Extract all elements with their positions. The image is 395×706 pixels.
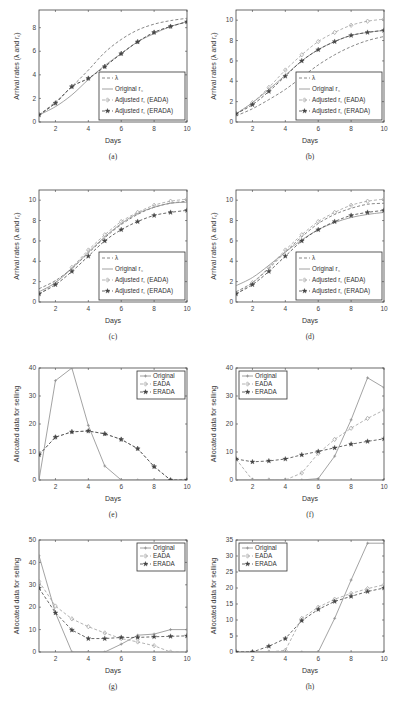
- y-tick-label: 2: [229, 278, 233, 285]
- y-tick-label: 2: [229, 98, 233, 105]
- y-tick-label: 40: [29, 559, 37, 566]
- legend-entry: Original: [255, 544, 277, 552]
- chart-svg: 24681001020304050DaysAllocated data for …: [0, 530, 198, 706]
- x-tick-label: 2: [251, 305, 255, 312]
- subfigure-caption: (a): [109, 152, 118, 161]
- x-tick-label: 10: [183, 125, 191, 132]
- legend-entry: Original r꜀: [312, 85, 340, 93]
- y-tick-label: 10: [29, 626, 37, 633]
- x-tick-label: 4: [284, 655, 288, 662]
- x-axis-label: Days: [105, 495, 121, 503]
- chart-legend: OriginalEADAERADA: [137, 371, 185, 399]
- x-tick-label: 10: [380, 655, 388, 662]
- chart-legend: λOriginal r꜀Adjusted r꜀ (EADA)Adjusted r…: [296, 72, 382, 120]
- chart-panel-a: 24681002468DaysArrival rates (λ and r꜀)(…: [0, 0, 198, 176]
- chart-panel-f: 246810010203040DaysAllocated data for se…: [197, 358, 395, 534]
- x-axis-label: Days: [302, 137, 318, 145]
- x-tick-label: 4: [284, 483, 288, 490]
- y-tick-label: 6: [229, 57, 233, 64]
- x-axis-label: Days: [302, 667, 318, 675]
- legend-entry: EADA: [255, 552, 273, 559]
- x-tick-label: 2: [54, 305, 58, 312]
- legend-entry: Original: [153, 372, 175, 380]
- chart-legend: λOriginal r꜀Adjusted r꜀ (EADA)Adjusted r…: [99, 72, 185, 120]
- legend-entry: Original: [153, 544, 175, 552]
- chart-svg: 2468100246810DaysArrival rates (λ and r꜀…: [197, 180, 395, 356]
- subfigure-caption: (e): [109, 510, 118, 519]
- y-tick-label: 0: [229, 118, 233, 125]
- x-tick-label: 2: [251, 125, 255, 132]
- x-tick-label: 2: [54, 125, 58, 132]
- y-tick-label: 10: [226, 616, 234, 623]
- y-tick-label: 30: [226, 552, 234, 559]
- y-tick-label: 20: [226, 584, 234, 591]
- legend-entry: Adjusted r꜀ (ERADA): [312, 287, 370, 295]
- legend-entry: Adjusted r꜀ (EADA): [312, 96, 365, 104]
- y-axis-label: Allocated data for selling: [210, 558, 218, 634]
- x-tick-label: 2: [54, 483, 58, 490]
- y-tick-label: 4: [32, 71, 36, 78]
- y-tick-label: 0: [32, 118, 36, 125]
- subfigure-caption: (d): [306, 332, 315, 341]
- x-tick-label: 6: [119, 305, 123, 312]
- y-axis-label: Arrival rates (λ and r꜀): [13, 32, 21, 99]
- y-axis-label: Arrival rates (λ and r꜀): [210, 212, 218, 279]
- y-tick-label: 30: [29, 392, 37, 399]
- y-tick-label: 4: [32, 257, 36, 264]
- x-tick-label: 6: [316, 305, 320, 312]
- y-tick-label: 15: [226, 600, 234, 607]
- y-tick-label: 40: [29, 364, 37, 371]
- y-tick-label: 35: [226, 536, 234, 543]
- legend-entry: Original r꜀: [115, 265, 143, 273]
- x-tick-label: 10: [380, 125, 388, 132]
- legend-entry: EADA: [153, 380, 171, 387]
- chart-panel-d: 2468100246810DaysArrival rates (λ and r꜀…: [197, 180, 395, 356]
- y-tick-label: 20: [29, 603, 37, 610]
- legend-entry: Adjusted r꜀ (ERADA): [115, 107, 173, 115]
- legend-entry: ERADA: [255, 388, 277, 395]
- y-tick-label: 0: [229, 648, 233, 655]
- chart-svg: 24681002468DaysArrival rates (λ and r꜀)(…: [0, 0, 198, 176]
- chart-svg: 246810010203040DaysAllocated data for se…: [197, 358, 395, 534]
- legend-entry: Original r꜀: [312, 265, 340, 273]
- chart-panel-g: 24681001020304050DaysAllocated data for …: [0, 530, 198, 706]
- legend-entry: EADA: [153, 552, 171, 559]
- legend-entry: ERADA: [255, 560, 277, 567]
- chart-panel-e: 246810010203040DaysAllocated data for se…: [0, 358, 198, 534]
- chart-svg: 2468100246810DaysArrival rates (λ and r꜀…: [0, 180, 198, 356]
- y-tick-label: 25: [226, 568, 234, 575]
- x-tick-label: 10: [183, 483, 191, 490]
- x-tick-label: 10: [380, 305, 388, 312]
- legend-entry: Adjusted r꜀ (EADA): [115, 96, 168, 104]
- x-axis-label: Days: [302, 317, 318, 325]
- y-tick-label: 4: [229, 77, 233, 84]
- y-tick-label: 8: [32, 24, 36, 31]
- chart-svg: 246810010203040DaysAllocated data for se…: [0, 358, 198, 534]
- y-tick-label: 6: [32, 47, 36, 54]
- x-axis-label: Days: [105, 317, 121, 325]
- chart-legend: λOriginal r꜀Adjusted r꜀ (EADA)Adjusted r…: [99, 252, 185, 300]
- x-tick-label: 4: [87, 125, 91, 132]
- x-tick-label: 2: [54, 655, 58, 662]
- x-tick-label: 4: [87, 305, 91, 312]
- legend-entry: EADA: [255, 380, 273, 387]
- x-tick-label: 8: [349, 655, 353, 662]
- y-tick-label: 10: [226, 448, 234, 455]
- y-tick-label: 6: [229, 237, 233, 244]
- chart-svg: 24681005101520253035DaysAllocated data f…: [197, 530, 395, 706]
- chart-panel-c: 2468100246810DaysArrival rates (λ and r꜀…: [0, 180, 198, 356]
- x-tick-label: 8: [349, 305, 353, 312]
- y-tick-label: 10: [29, 448, 37, 455]
- y-tick-label: 0: [229, 298, 233, 305]
- y-tick-label: 6: [32, 237, 36, 244]
- y-tick-label: 0: [32, 648, 36, 655]
- y-axis-label: Allocated data for selling: [13, 386, 21, 462]
- chart-legend: OriginalEADAERADA: [137, 543, 185, 571]
- y-axis-label: Arrival rates (λ and r꜀): [210, 32, 218, 99]
- subfigure-caption: (c): [109, 332, 118, 341]
- y-tick-label: 2: [32, 95, 36, 102]
- x-tick-label: 8: [349, 483, 353, 490]
- x-tick-label: 4: [87, 655, 91, 662]
- x-tick-label: 4: [284, 305, 288, 312]
- legend-entry: Adjusted r꜀ (EADA): [115, 276, 168, 284]
